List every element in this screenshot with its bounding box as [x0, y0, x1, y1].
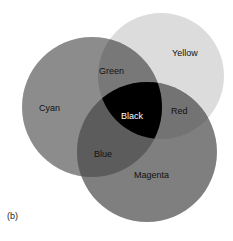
- label-red: Red: [171, 106, 188, 116]
- panel-label: (b): [7, 211, 18, 221]
- label-green: Green: [99, 66, 124, 76]
- label-black: Black: [121, 111, 144, 121]
- label-blue: Blue: [94, 149, 112, 159]
- label-cyan: Cyan: [39, 103, 60, 113]
- label-yellow: Yellow: [172, 48, 198, 58]
- venn-diagram: Yellow Green Cyan Black Red Blue Magenta…: [0, 0, 233, 241]
- label-magenta: Magenta: [134, 170, 169, 180]
